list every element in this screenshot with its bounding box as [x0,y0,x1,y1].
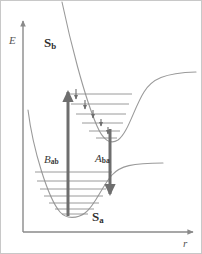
excited-state-curve [62,2,196,142]
absorption-coefficient-base: B [44,153,51,165]
axes-group [23,21,193,232]
ground-state-label: Sa [92,210,104,223]
excited-state-vibrational-levels [67,94,132,138]
emission-coefficient-subscript: ba [102,156,110,165]
excited-state-label: Sb [44,36,56,49]
energy-axis-label: E [9,35,16,46]
emission-coefficient-label: Aba [95,153,110,164]
ground-state-label-subscript: a [99,215,103,225]
absorption-coefficient-subscript: ab [51,157,59,166]
potential-energy-diagram: E r Sb Sa Bab Aba [0,0,202,254]
absorption-coefficient-label: Bab [44,154,59,165]
distance-axis-label: r [183,238,187,249]
emission-coefficient-base: A [95,152,102,164]
excited-state-label-subscript: b [51,41,56,51]
vibrational-relaxation-arrows [76,89,108,134]
